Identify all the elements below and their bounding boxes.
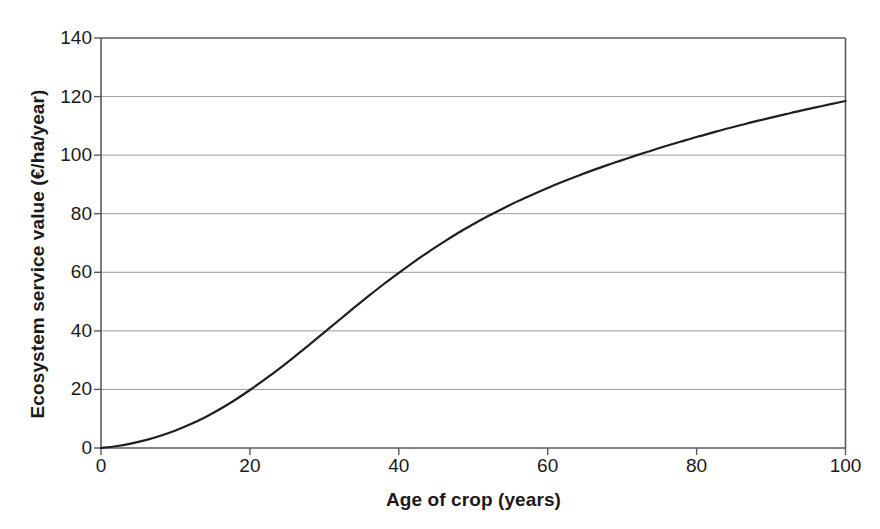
plot-area xyxy=(0,0,880,529)
y-tick-marks xyxy=(94,38,101,448)
x-tick-marks xyxy=(101,448,846,455)
plot-background xyxy=(101,38,846,448)
chart-figure: Ecosystem service value (€/ha/year) Age … xyxy=(0,0,880,529)
